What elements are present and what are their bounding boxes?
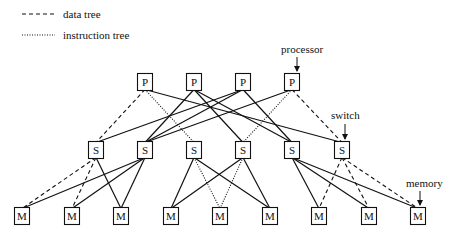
edge-s2-m3-solid [121,158,145,209]
switch-label: S [289,144,295,156]
memory-node-m5: M [213,208,228,225]
memory-node-m1: M [15,208,30,225]
legend-item-data-tree: data tree [22,8,101,20]
legend-label-data-tree: data tree [63,8,101,20]
switch-node-s6: S [335,142,350,159]
switch-node-s5: S [285,142,300,159]
processor-label: processor [281,43,323,55]
memory-node-m6: M [263,208,278,225]
edge-s5-m7-solid [292,158,319,209]
edge-p3-s2-solid [145,90,243,143]
memory-label: M [166,210,176,222]
legend: data tree instruction tree [22,8,129,41]
switch-node-s3: S [187,142,202,159]
memory-label: M [215,210,225,222]
processor-node-p3: P [236,74,251,91]
processor-node-p1: P [138,74,153,91]
annotation-switch: switch [331,109,360,139]
switch-node-s4: S [236,142,251,159]
memory-label: M [265,210,275,222]
memory-label: M [364,210,374,222]
switch-label: S [240,144,246,156]
annotation-processor: processor [281,43,323,71]
switch-label: S [142,144,148,156]
switch-label: S [93,144,99,156]
legend-item-instruction-tree: instruction tree [22,29,129,41]
processor-label: P [289,76,295,88]
processor-label: P [240,76,246,88]
switch-label: S [191,144,197,156]
annotation-memory: memory [406,177,443,205]
memory-node-m2: M [65,208,80,225]
switch-node-s2: S [138,142,153,159]
edge-s5-m8-solid [292,158,369,209]
interconnection-network-diagram: data tree instruction tree PPPPSSSSSSMMM… [0,0,454,236]
memory-label: M [116,210,126,222]
edge-s4-m6-solid [243,158,270,209]
edges [22,90,418,209]
switch-node-s1: S [89,142,104,159]
edge-p2-s5-solid [194,90,292,143]
switch-label: switch [331,109,360,121]
memory-node-m8: M [362,208,377,225]
memory-node-m9: M [411,208,426,225]
memory-node-m4: M [164,208,179,225]
processor-node-p2: P [187,74,202,91]
processor-node-p4: P [285,74,300,91]
edge-p4-s2-solid [145,90,292,143]
memory-label: M [67,210,77,222]
memory-label: M [17,210,27,222]
edge-s6-m8-dashed [342,158,369,209]
switch-label: S [339,144,345,156]
memory-label: M [413,210,423,222]
memory-node-m7: M [312,208,327,225]
legend-label-instruction-tree: instruction tree [63,29,129,41]
nodes: PPPPSSSSSSMMMMMMMMM [15,74,426,225]
memory-label: memory [406,177,443,189]
edge-p1-s1-dashed [96,90,145,143]
processor-label: P [142,76,148,88]
memory-label: M [314,210,324,222]
memory-node-m3: M [114,208,129,225]
processor-label: P [191,76,197,88]
edge-p3-s1-solid [96,90,243,143]
